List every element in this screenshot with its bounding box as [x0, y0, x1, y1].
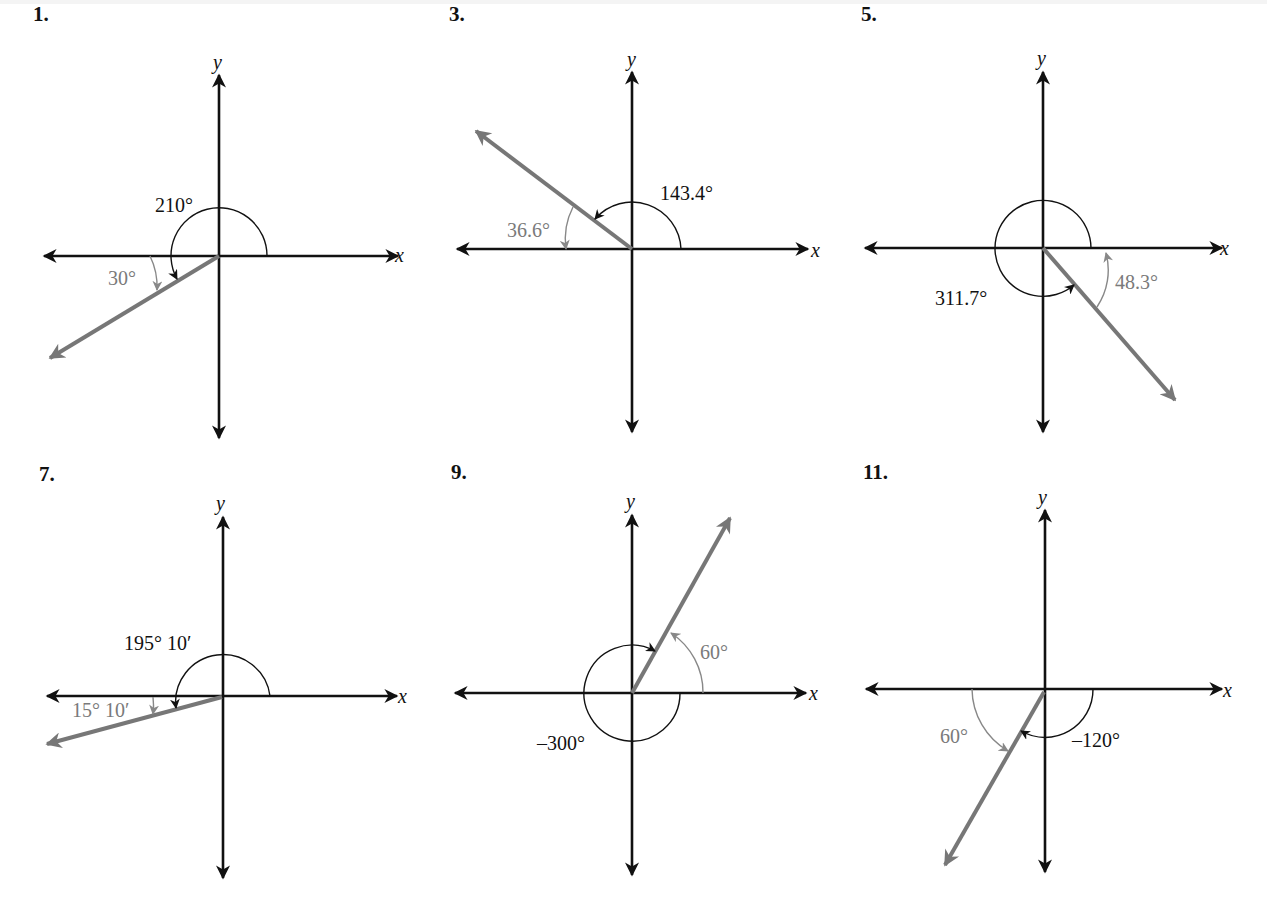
problem-7-figure: 7. x y 195° 10′ 15° 10′ — [39, 462, 407, 878]
y-axis-label: y — [211, 51, 222, 74]
y-axis-label: y — [625, 48, 636, 71]
y-axis-label: y — [1036, 486, 1047, 509]
problem-11-figure: 11. x y –120° 60° — [863, 460, 1232, 872]
y-axis-label: y — [624, 490, 635, 513]
problem-11-number: 11. — [863, 460, 888, 484]
problem-9-figure: 9. x y –300° 60° — [451, 460, 818, 875]
x-axis-label: x — [1222, 679, 1232, 701]
angle-label: 311.7° — [935, 287, 987, 309]
x-axis-label: x — [810, 239, 820, 261]
reference-angle-arc — [1097, 253, 1108, 307]
angle-label: –120° — [1071, 729, 1120, 751]
problem-1-number: 1. — [33, 2, 49, 26]
problem-1-figure: 1. x y 210° 30° — [33, 2, 404, 438]
problem-9-number: 9. — [451, 460, 467, 484]
reference-angle-label: 60° — [940, 725, 968, 747]
x-axis-label: x — [808, 682, 818, 704]
angle-arc — [595, 202, 681, 249]
terminal-side-ray — [476, 131, 632, 249]
reference-angle-label: 36.6° — [507, 219, 550, 241]
reference-angle-arc — [972, 689, 1008, 751]
terminal-side-ray — [632, 518, 730, 693]
problem-5-number: 5. — [861, 2, 877, 26]
reference-angle-arc — [565, 207, 573, 249]
x-axis-label: x — [1219, 237, 1229, 259]
y-axis-label: y — [1035, 47, 1046, 70]
reference-angle-arc — [153, 697, 154, 714]
angle-label: 143.4° — [660, 182, 713, 204]
problem-3-number: 3. — [449, 2, 465, 26]
reference-angle-arc — [150, 256, 157, 290]
x-axis-label: x — [394, 244, 404, 266]
x-axis-label: x — [397, 685, 407, 707]
angle-label: 195° 10′ — [124, 632, 191, 654]
reference-angle-label: 15° 10′ — [72, 699, 129, 721]
reference-angle-label: 48.3° — [1115, 271, 1158, 293]
terminal-side-ray — [945, 692, 1044, 865]
y-axis-label: y — [214, 492, 225, 515]
reference-angle-arc — [671, 633, 703, 693]
angle-label: –300° — [536, 732, 585, 754]
problem-3-figure: 3. x y 143.4° 36.6° — [449, 2, 820, 432]
reference-angle-label: 30° — [108, 267, 136, 289]
reference-angle-label: 60° — [700, 641, 728, 663]
reference-angle-figures: 1. x y 210° 30° 3. x y 143.4° 36.6° 5. x… — [0, 0, 1267, 918]
angle-label: 210° — [155, 194, 193, 216]
problem-7-number: 7. — [39, 462, 55, 486]
problem-5-figure: 5. x y 311.7° 48.3° — [861, 2, 1229, 432]
